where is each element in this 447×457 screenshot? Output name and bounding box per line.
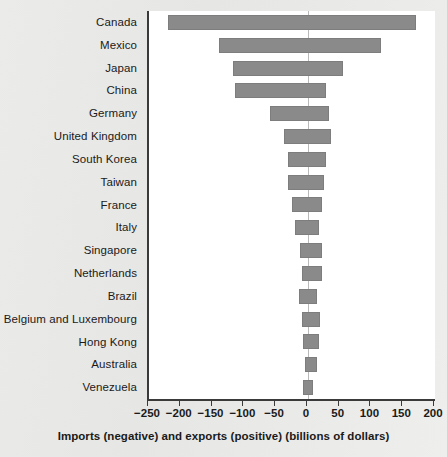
bar	[299, 289, 317, 304]
x-axis-tick	[306, 401, 307, 406]
bar-row	[149, 331, 435, 354]
category-axis-labels: CanadaMexicoJapanChinaGermanyUnited King…	[0, 11, 142, 401]
bars-layer	[149, 11, 435, 399]
bar-row	[149, 125, 435, 148]
trade-balance-bar-chart: CanadaMexicoJapanChinaGermanyUnited King…	[0, 0, 447, 457]
x-axis-tick-label: −150	[198, 407, 224, 419]
bar-row	[149, 285, 435, 308]
bar-row	[149, 102, 435, 125]
category-label: South Korea	[72, 148, 137, 171]
bar	[235, 83, 326, 98]
x-axis-tick-label: 0	[303, 407, 309, 419]
bar-row	[149, 262, 435, 285]
bar-row	[149, 308, 435, 331]
bar-row	[149, 57, 435, 80]
bar-row	[149, 171, 435, 194]
bar	[292, 197, 322, 212]
x-axis-tick-label: −50	[264, 407, 284, 419]
bar-row	[149, 148, 435, 171]
category-label: China	[106, 79, 137, 102]
category-label: Germany	[89, 102, 137, 125]
x-axis-tick-label: −100	[229, 407, 255, 419]
category-label: Venezuela	[82, 376, 137, 399]
category-label: Singapore	[84, 239, 137, 262]
bar	[288, 175, 324, 190]
category-label: Australia	[91, 353, 137, 376]
bar	[303, 334, 319, 349]
category-label: France	[101, 194, 137, 217]
x-axis-tick	[274, 401, 275, 406]
category-label: Brazil	[108, 285, 137, 308]
x-axis-title: Imports (negative) and exports (positive…	[0, 430, 447, 442]
x-axis-tick-label: 200	[423, 407, 442, 419]
x-axis-tick-label: −250	[134, 407, 160, 419]
x-axis: −250−200−150−100−50050100150200	[147, 401, 435, 427]
category-label: United Kingdom	[54, 125, 137, 148]
bar	[288, 152, 326, 167]
category-label: Netherlands	[74, 262, 137, 285]
category-label: Japan	[105, 57, 137, 80]
bar	[295, 220, 319, 235]
x-axis-tick-label: 50	[331, 407, 344, 419]
bar-row	[149, 11, 435, 34]
bar-row	[149, 376, 435, 399]
x-axis-tick	[401, 401, 402, 406]
x-axis-tick	[147, 401, 148, 406]
bar	[270, 106, 329, 121]
bar-row	[149, 79, 435, 102]
bar	[305, 357, 318, 372]
category-label: Italy	[115, 216, 137, 239]
category-label: Mexico	[100, 34, 137, 57]
x-axis-tick	[242, 401, 243, 406]
x-axis-tick	[369, 401, 370, 406]
x-axis-tick	[433, 401, 434, 406]
category-label: Taiwan	[101, 171, 137, 194]
x-axis-tick	[338, 401, 339, 406]
category-label: Hong Kong	[79, 331, 137, 354]
bar	[219, 38, 381, 53]
x-axis-tick-label: −200	[166, 407, 192, 419]
bar	[302, 312, 320, 327]
bar	[300, 243, 322, 258]
x-axis-tick	[179, 401, 180, 406]
x-axis-tick-label: 100	[360, 407, 379, 419]
bar	[302, 266, 322, 281]
category-label: Belgium and Luxembourg	[4, 308, 137, 331]
bar-row	[149, 353, 435, 376]
bar-row	[149, 216, 435, 239]
bar	[284, 129, 331, 144]
bar	[303, 380, 313, 395]
bar-row	[149, 239, 435, 262]
bar-row	[149, 34, 435, 57]
bar-row	[149, 194, 435, 217]
category-label: Canada	[96, 11, 137, 34]
plot-area	[147, 11, 435, 401]
x-axis-tick	[211, 401, 212, 406]
bar	[168, 15, 416, 30]
x-axis-tick-label: 150	[392, 407, 411, 419]
bar	[233, 61, 344, 76]
